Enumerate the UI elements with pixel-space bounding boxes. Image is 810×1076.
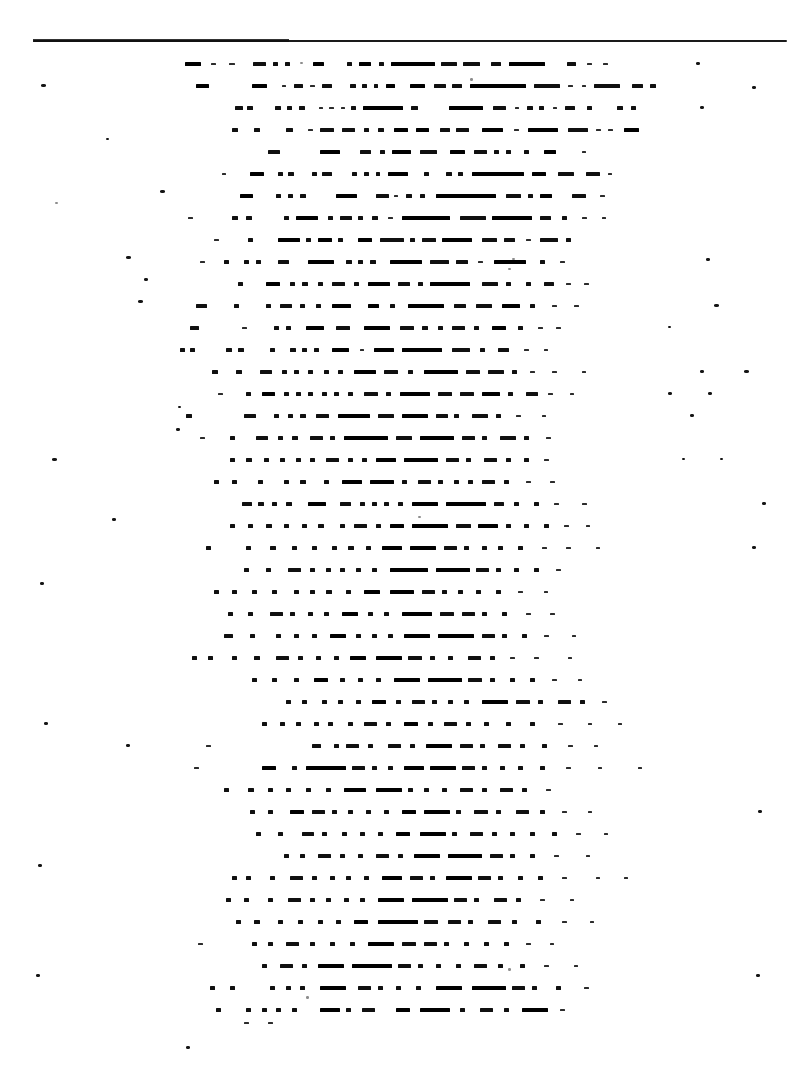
ink-gap xyxy=(380,173,388,174)
ink-gap xyxy=(543,327,556,328)
ink-gap xyxy=(249,569,266,570)
ink-gap xyxy=(567,877,596,878)
ink-gap xyxy=(249,1022,268,1023)
ink-gap xyxy=(353,723,364,724)
ink-gap xyxy=(559,855,586,856)
ink-gap xyxy=(371,547,382,548)
ink-gap xyxy=(529,525,544,526)
ink-gap xyxy=(280,151,320,152)
glyph-fragment xyxy=(493,106,506,109)
scan-speck xyxy=(696,62,700,65)
ink-gap xyxy=(459,415,472,416)
ink-gap xyxy=(242,371,260,372)
ink-gap xyxy=(313,393,322,394)
glyph-fragment xyxy=(354,524,367,527)
glyph-fragment xyxy=(370,480,394,484)
glyph-fragment xyxy=(196,84,209,88)
glyph-fragment xyxy=(262,766,276,770)
glyph-fragment xyxy=(308,502,326,506)
text-line xyxy=(222,172,612,181)
ink-gap xyxy=(319,723,328,724)
glyph-fragment xyxy=(410,876,423,879)
glyph-fragment xyxy=(468,656,481,659)
ink-gap xyxy=(552,195,572,196)
ink-gap xyxy=(499,151,506,152)
ink-gap xyxy=(253,107,275,108)
glyph-fragment xyxy=(412,700,425,703)
ink-gap xyxy=(498,525,506,526)
ink-gap xyxy=(508,701,516,702)
ink-gap xyxy=(221,1009,246,1010)
glyph-fragment xyxy=(318,238,332,242)
ink-gap xyxy=(515,657,534,658)
ink-gap xyxy=(263,481,284,482)
ink-gap xyxy=(457,833,470,834)
glyph-fragment xyxy=(398,964,411,967)
ink-gap xyxy=(413,789,424,790)
glyph-fragment xyxy=(444,546,457,549)
ink-gap xyxy=(558,239,566,240)
glyph-fragment xyxy=(472,172,524,176)
glyph-fragment xyxy=(376,788,402,792)
text-line xyxy=(262,964,578,973)
ink-gap xyxy=(364,349,374,350)
glyph-fragment xyxy=(586,525,590,527)
text-line xyxy=(192,656,572,665)
ink-gap xyxy=(378,217,388,218)
scan-speck xyxy=(756,974,760,977)
ink-gap xyxy=(515,855,530,856)
glyph-fragment xyxy=(470,832,483,835)
ink-gap xyxy=(362,481,370,482)
ink-gap xyxy=(551,217,562,218)
glyph-fragment xyxy=(318,964,344,968)
ink-gap xyxy=(329,481,342,482)
ink-gap xyxy=(251,393,262,394)
glyph-fragment xyxy=(494,502,504,505)
ink-gap xyxy=(307,525,318,526)
glyph-fragment xyxy=(565,106,575,109)
ink-gap xyxy=(404,899,412,900)
glyph-fragment xyxy=(410,84,425,88)
ink-gap xyxy=(376,261,390,262)
glyph-fragment xyxy=(382,546,402,550)
ink-gap xyxy=(215,987,230,988)
ink-gap xyxy=(480,371,488,372)
ink-gap xyxy=(394,481,402,482)
glyph-fragment xyxy=(588,811,592,813)
ink-gap xyxy=(251,877,270,878)
text-line xyxy=(286,700,607,709)
glyph-fragment xyxy=(398,282,410,285)
scan-speck xyxy=(186,1046,190,1049)
ink-gap xyxy=(359,283,368,284)
glyph-fragment xyxy=(374,348,394,352)
glyph-fragment xyxy=(408,656,422,659)
ink-gap xyxy=(487,613,502,614)
text-line xyxy=(235,106,636,115)
text-line xyxy=(180,348,548,357)
glyph-fragment xyxy=(556,569,561,571)
ink-gap xyxy=(447,591,458,592)
ink-gap xyxy=(497,459,506,460)
glyph-fragment xyxy=(446,876,472,880)
ink-gap xyxy=(205,437,230,438)
text-line xyxy=(232,876,628,885)
ink-gap xyxy=(283,921,298,922)
glyph-fragment xyxy=(412,502,438,506)
text-line xyxy=(214,480,555,489)
glyph-fragment xyxy=(494,898,507,901)
scan-speck xyxy=(160,190,165,193)
ink-gap xyxy=(507,613,526,614)
ink-gap xyxy=(395,305,408,306)
ink-gap xyxy=(357,173,364,174)
ink-gap xyxy=(271,569,288,570)
ink-gap xyxy=(543,701,558,702)
glyph-fragment xyxy=(600,195,605,197)
glyph-fragment xyxy=(542,415,546,417)
ink-gap xyxy=(315,591,326,592)
ink-gap xyxy=(495,657,510,658)
glyph-fragment xyxy=(448,920,461,923)
ink-gap xyxy=(305,987,320,988)
glyph-fragment xyxy=(474,150,487,153)
ink-gap xyxy=(306,481,324,482)
ink-gap xyxy=(411,151,420,152)
